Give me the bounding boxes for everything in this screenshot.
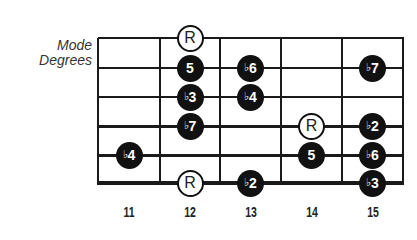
degree-note-marker: 5	[177, 55, 204, 82]
fret-number-13: 13	[239, 204, 262, 220]
degree-label: R	[184, 29, 196, 47]
flat-symbol: ♭	[366, 119, 371, 132]
flat-symbol: ♭	[244, 90, 249, 103]
fret-number-12: 12	[179, 204, 202, 220]
degree-label: 5	[308, 147, 316, 163]
diagram-title: Mode Degrees	[22, 38, 92, 68]
degree-label: 6	[249, 60, 257, 76]
degree-label: R	[184, 174, 196, 192]
flat-symbol: ♭	[123, 148, 128, 161]
flat-symbol: ♭	[366, 61, 371, 74]
degree-note-marker: ♭3	[359, 170, 386, 197]
degree-label: 7	[371, 60, 379, 76]
degree-label: 6	[371, 147, 379, 163]
fret-line	[341, 38, 343, 185]
flat-symbol: ♭	[244, 176, 249, 189]
title-line-mode: Mode	[22, 38, 92, 53]
fret-line	[97, 38, 99, 185]
degree-label: 5	[186, 60, 194, 76]
degree-note-marker: ♭4	[116, 142, 143, 169]
fret-number-15: 15	[361, 204, 384, 220]
root-note-marker: R	[298, 113, 325, 140]
degree-note-marker: ♭2	[359, 113, 386, 140]
degree-label: 2	[371, 118, 379, 134]
fret-line	[219, 38, 221, 185]
fret-line	[159, 38, 161, 185]
title-line-degrees: Degrees	[22, 53, 92, 68]
flat-symbol: ♭	[184, 119, 189, 132]
degree-label: R	[306, 117, 318, 135]
fret-number-14: 14	[300, 204, 323, 220]
degree-label: 2	[249, 175, 257, 191]
fret-number-11: 11	[118, 204, 141, 220]
flat-symbol: ♭	[366, 148, 371, 161]
degree-note-marker: 5	[298, 142, 325, 169]
degree-note-marker: ♭6	[237, 55, 264, 82]
degree-note-marker: ♭7	[359, 55, 386, 82]
root-note-marker: R	[177, 170, 204, 197]
flat-symbol: ♭	[366, 176, 371, 189]
degree-label: 7	[189, 118, 197, 134]
flat-symbol: ♭	[184, 90, 189, 103]
fret-line	[402, 38, 404, 185]
root-note-marker: R	[177, 25, 204, 52]
flat-symbol: ♭	[244, 61, 249, 74]
degree-label: 3	[189, 89, 197, 105]
degree-label: 4	[249, 89, 257, 105]
degree-note-marker: ♭3	[177, 84, 204, 111]
degree-label: 3	[371, 175, 379, 191]
fret-line	[280, 38, 282, 185]
degree-note-marker: ♭6	[359, 142, 386, 169]
string-line	[98, 37, 404, 39]
degree-note-marker: ♭4	[237, 84, 264, 111]
degree-label: 4	[128, 147, 136, 163]
degree-note-marker: ♭2	[237, 170, 264, 197]
degree-note-marker: ♭7	[177, 113, 204, 140]
